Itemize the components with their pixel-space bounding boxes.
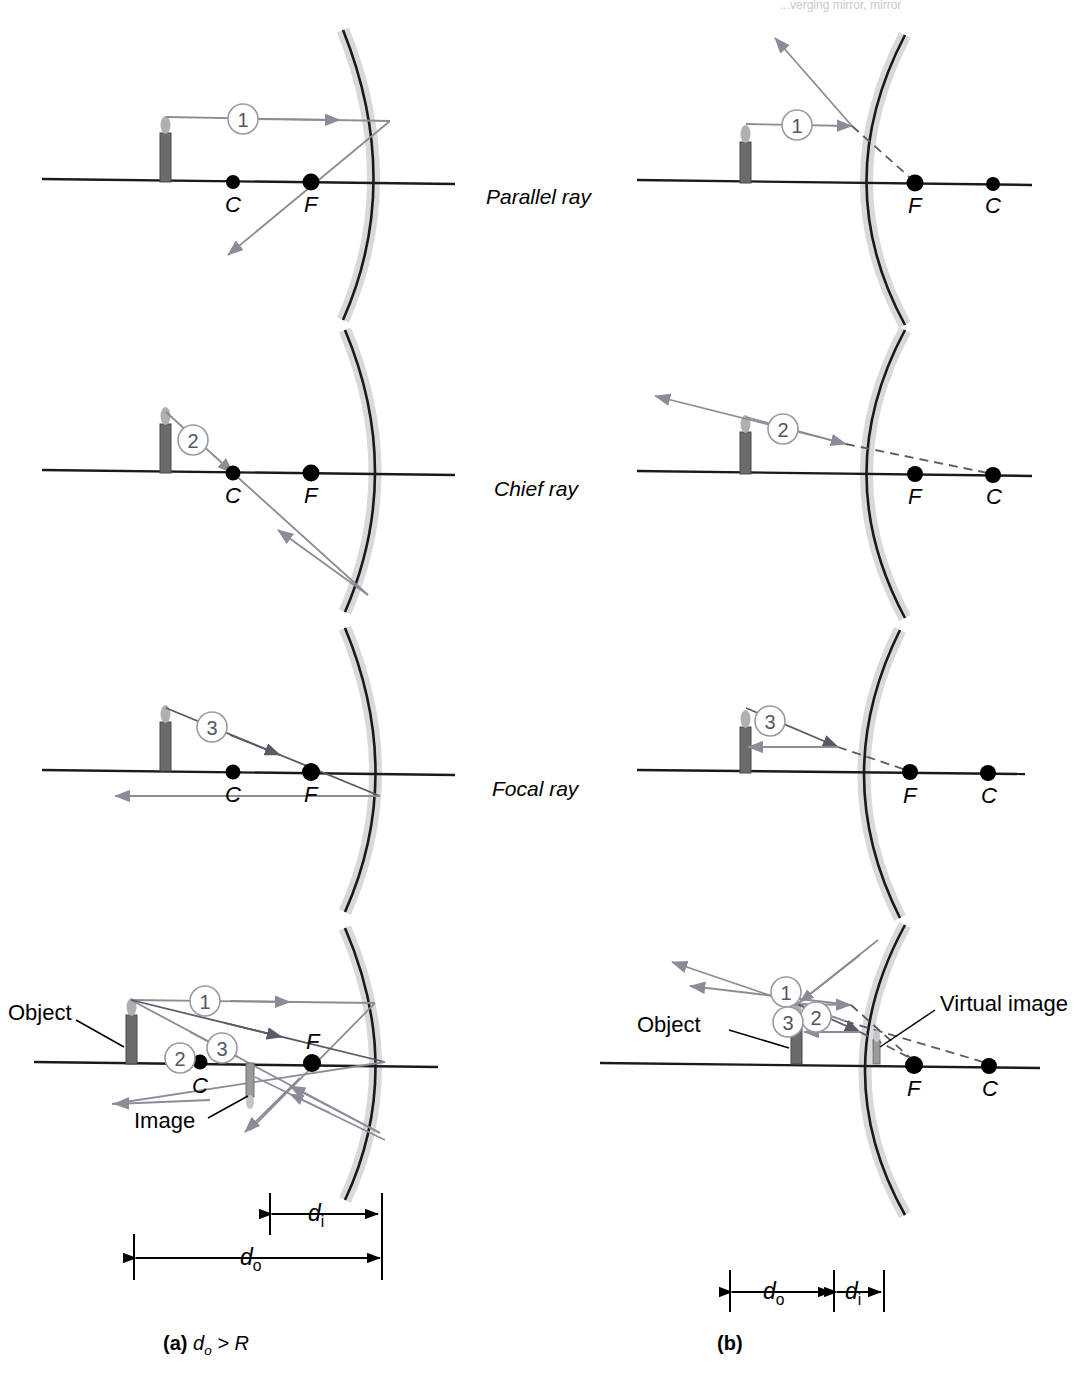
di-subscript: i [321,1213,324,1230]
label-parallel-ray: Parallel ray [486,185,591,209]
top-note: ...verging mirror, mirror [780,0,901,12]
object-candle-body [740,432,751,474]
ray-number-1-text: 1 [199,991,210,1013]
point-F [905,1056,923,1074]
object-candle-body [160,722,171,771]
object-candle-body [740,142,751,183]
object-candle-body [160,133,171,182]
point-label-F: F [304,483,317,509]
object-candle-flame [161,116,171,134]
dimension-label-do: do [240,1244,262,1275]
diagram-convex-chief: 2 [637,330,1032,618]
point-label-F: F [304,192,317,218]
ray-number-1-text: 1 [791,115,802,137]
point-F [907,175,924,192]
point-label-C: C [985,193,1001,219]
di-symbol: d [845,1278,858,1304]
caption-b-marker: (b) [717,1332,743,1354]
diagram-convex-full: 1 2 3 [600,925,1040,1312]
dimension-label-di: di [308,1200,324,1231]
dimension-label-di: di [845,1278,861,1309]
point-label-C: C [982,1076,998,1102]
principal-axis [42,179,455,184]
principal-axis [637,770,1025,774]
object-candle-flame [741,710,751,728]
caption-a-subscript: o [204,1343,212,1358]
row-parallel-ray: 1 1 [42,30,1032,325]
caption-a-symbol: d [193,1332,204,1354]
point-F [907,466,923,482]
image-leader-line [208,1096,248,1118]
point-C [985,467,1001,483]
point-F [303,174,320,191]
do-symbol: d [240,1244,253,1270]
point-label-C: C [225,483,241,509]
point-label-C: C [981,783,997,809]
ray-number-3-text: 3 [216,1038,227,1060]
principal-axis [637,180,1032,185]
ray-number-3-text: 3 [206,717,217,739]
di-symbol: d [308,1200,321,1226]
object-candle-flame [741,125,751,143]
diagram-concave-full: 1 2 3 [34,928,438,1280]
do-symbol: d [763,1278,776,1304]
virtual-image-candle-body [873,1040,880,1064]
dimension-label-do: do [763,1278,785,1309]
ray-number-2-text: 2 [810,1007,821,1029]
image-candle-body [246,1063,254,1097]
principal-axis [637,471,1032,476]
label-focal-ray: Focal ray [492,777,578,801]
do-subscript: o [776,1291,785,1308]
ray-number-2-text: 2 [187,430,198,452]
ray-2-to-mirror [233,473,368,595]
ray-1-arrow [250,119,340,120]
diagram-concave-parallel: 1 [42,30,455,320]
label-object: Object [8,1000,72,1026]
di-subscript: i [858,1291,861,1308]
ray-number-3-text: 3 [782,1012,793,1034]
point-label-C: C [225,192,241,218]
point-label-F: F [304,782,317,808]
point-label-C: C [192,1073,208,1099]
do-subscript: o [253,1257,262,1274]
ray-3-arrow [225,1023,282,1037]
point-label-F: F [903,783,916,809]
point-F [302,763,320,781]
point-F [902,764,918,780]
ray-number-2-text: 2 [777,419,788,441]
point-label-C: C [986,484,1002,510]
caption-a-marker: (a) [163,1332,187,1354]
diagram-convex-focal: 3 [637,630,1025,918]
object-candle-flame [161,705,171,723]
point-C [986,177,1000,191]
object-candle-body [740,727,751,773]
label-object: Object [637,1012,701,1038]
caption-b: (b) [717,1332,743,1355]
ray-number-1-text: 1 [237,109,248,131]
ray-1-arrow [230,1001,290,1002]
point-C [980,765,996,781]
object-candle-flame [161,407,171,425]
point-C [981,1058,997,1074]
principal-axis [42,470,455,475]
object-candle-body [126,1015,137,1064]
point-label-F: F [306,1029,319,1055]
ray-number-3-text: 3 [764,711,775,733]
principal-axis [600,1063,1040,1068]
virtual-image-candle-flame [873,1030,880,1042]
diagram-concave-chief: 2 [42,330,455,612]
point-label-F: F [908,484,921,510]
virtual-image-leader-line [880,1010,935,1047]
caption-a-tail: > R [212,1332,249,1354]
point-label-F: F [907,1076,920,1102]
row-focal-ray: 3 3 [42,628,1025,918]
point-label-C: C [225,782,241,808]
ray-1-reflected [775,38,852,126]
point-C [226,466,241,481]
point-C [226,765,241,780]
diagram-convex-parallel: 1 [637,35,1032,325]
ray-3-virtual-extension [838,747,912,772]
object-leader-line [76,1020,124,1047]
ray-number-1-text: 1 [780,982,791,1004]
label-image: Image [134,1108,195,1134]
